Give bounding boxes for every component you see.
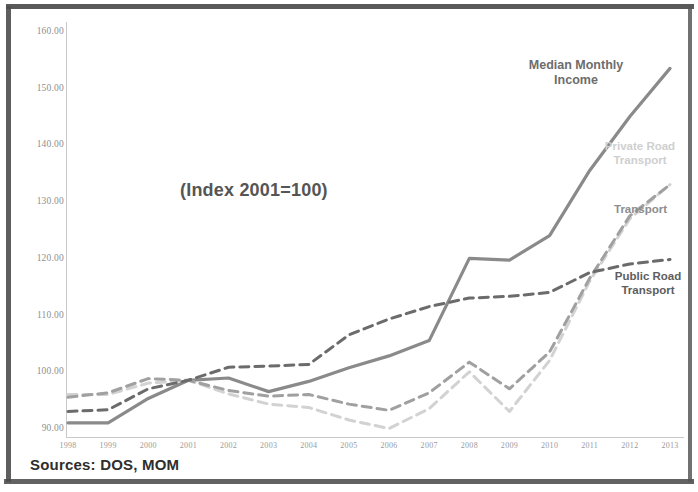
series-label-public-line2: Transport (602, 284, 694, 298)
series-label-public-line1: Public Road (602, 270, 694, 284)
series-line-median-monthly-income (68, 68, 670, 422)
frame-border-right (688, 6, 692, 482)
frame-border-bottom (4, 479, 694, 484)
index-base-note: (Index 2001=100) (180, 180, 328, 201)
series-line-public-road-transport (68, 259, 670, 411)
series-label-median-line2: Income (516, 73, 636, 88)
series-line-private-road-transport (68, 185, 670, 429)
series-label-transport: Transport (614, 203, 667, 217)
series-label-public-road-transport: Public Road Transport (602, 270, 694, 297)
series-label-median-monthly-income: Median Monthly Income (516, 58, 636, 88)
series-label-median-line1: Median Monthly (516, 58, 636, 73)
sources-caption: Sources: DOS, MOM (30, 456, 179, 473)
series-line-transport (68, 185, 670, 411)
series-label-private-line1: Private Road (588, 140, 692, 154)
series-label-private-line2: Transport (588, 154, 692, 168)
series-label-private-road-transport: Private Road Transport (588, 140, 692, 167)
slide-canvas: 90.00100.00110.00120.00130.00140.00150.0… (0, 0, 698, 492)
